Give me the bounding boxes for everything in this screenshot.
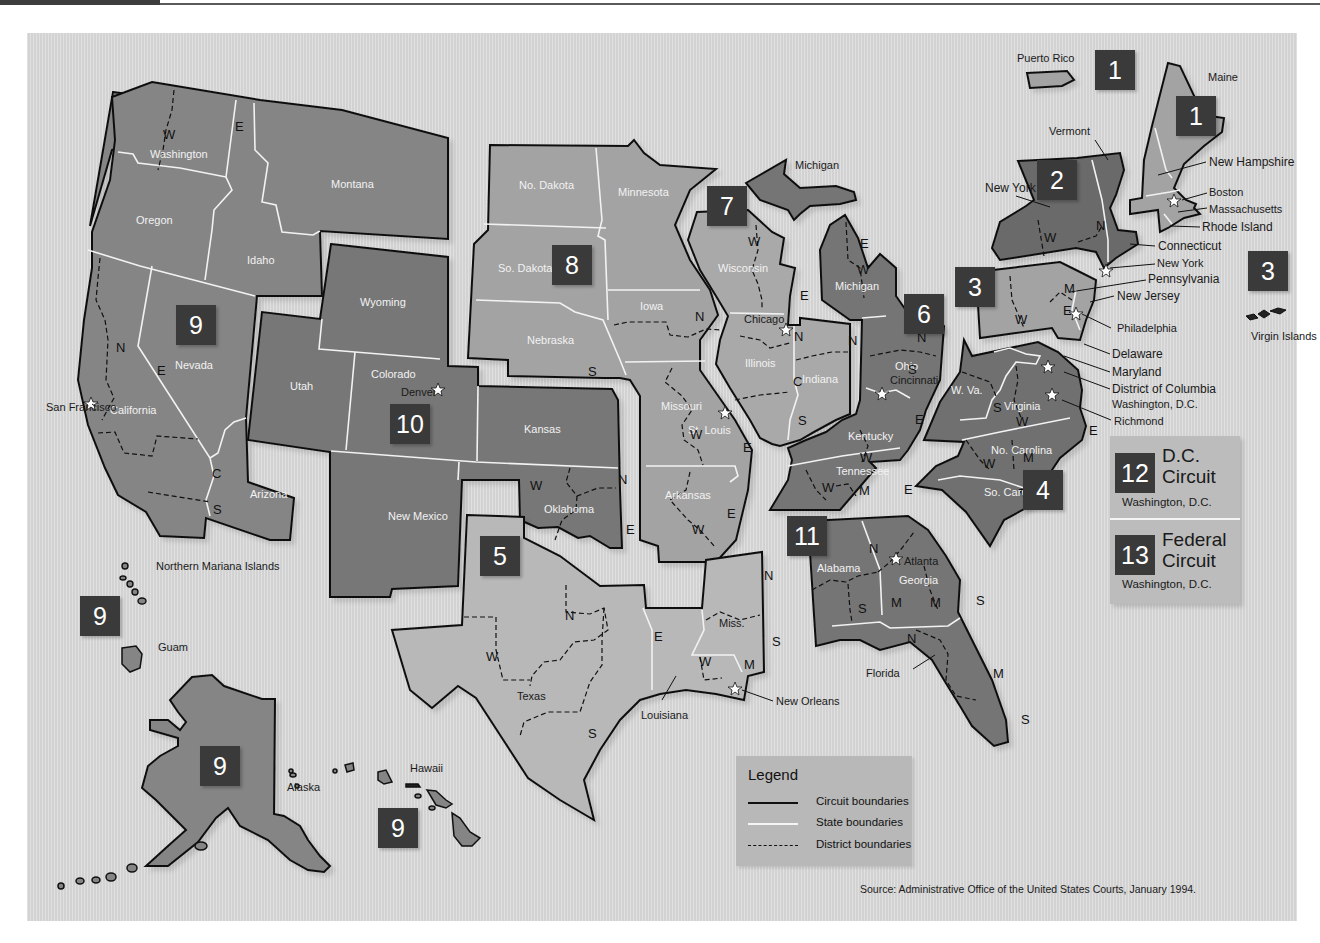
svg-text:N: N bbox=[116, 340, 125, 355]
label-alabama: Alabama bbox=[817, 562, 861, 574]
label-new-mexico-text: New Mexico bbox=[388, 510, 448, 522]
solid-line-icon bbox=[748, 802, 798, 804]
label-dc: District of Columbia bbox=[1112, 382, 1216, 396]
svg-text:W: W bbox=[822, 480, 835, 495]
circuit-number-13: 13 bbox=[1115, 535, 1155, 575]
label-massachusetts: Massachusetts bbox=[1209, 203, 1283, 215]
circuit-number-9-hawaii: 9 bbox=[378, 808, 418, 848]
svg-text:E: E bbox=[800, 288, 809, 303]
label-new-york: New York bbox=[985, 181, 1037, 195]
federal-circuit-title-line1: Federal bbox=[1162, 530, 1226, 550]
legend-label: Circuit boundaries bbox=[816, 795, 909, 807]
label-virginia: Virginia bbox=[1004, 400, 1041, 412]
city-washington-dc: Washington, D.C. bbox=[1112, 398, 1198, 410]
label-maryland: Maryland bbox=[1112, 365, 1161, 379]
label-puerto-rico: Puerto Rico bbox=[1017, 52, 1074, 64]
svg-text:S: S bbox=[908, 362, 917, 377]
svg-text:N: N bbox=[848, 333, 857, 348]
svg-text:W: W bbox=[1016, 414, 1029, 429]
label-texas: Texas bbox=[517, 690, 546, 702]
label-new-mexico: New Mexico bbox=[388, 510, 448, 522]
label-california: California bbox=[110, 404, 157, 416]
city-new-york: New York bbox=[1157, 257, 1204, 269]
circuit-number-3-virgin-islands: 3 bbox=[1248, 251, 1288, 291]
label-kentucky: Kentucky bbox=[848, 430, 894, 442]
city-philadelphia: Philadelphia bbox=[1117, 322, 1178, 334]
svg-text:N: N bbox=[695, 309, 704, 324]
circuit-number-5: 5 bbox=[480, 536, 520, 576]
label-guam: Guam bbox=[158, 641, 188, 653]
svg-text:E: E bbox=[904, 482, 913, 497]
legend-label: State boundaries bbox=[816, 816, 903, 828]
svg-text:E: E bbox=[1063, 303, 1072, 318]
svg-text:M: M bbox=[1064, 281, 1075, 296]
svg-text:W: W bbox=[699, 654, 712, 669]
label-tennessee: Tennessee bbox=[836, 465, 889, 477]
circuit-number-1-puerto-rico: 1 bbox=[1095, 50, 1135, 90]
label-missouri: Missouri bbox=[661, 400, 702, 412]
svg-text:S: S bbox=[772, 634, 781, 649]
label-michigan-up: Michigan bbox=[795, 159, 839, 171]
svg-text:W: W bbox=[692, 522, 705, 537]
svg-text:W: W bbox=[690, 427, 703, 442]
label-wisconsin: Wisconsin bbox=[718, 262, 768, 274]
label-rhode-island: Rhode Island bbox=[1202, 220, 1273, 234]
label-idaho: Idaho bbox=[247, 254, 275, 266]
label-new-jersey: New Jersey bbox=[1117, 289, 1180, 303]
svg-text:W: W bbox=[163, 127, 176, 142]
label-w-va: W. Va. bbox=[951, 384, 983, 396]
svg-text:S: S bbox=[976, 593, 985, 608]
label-alaska: Alaska bbox=[287, 781, 321, 793]
svg-text:N: N bbox=[869, 541, 878, 556]
circuit-number-12: 12 bbox=[1115, 453, 1155, 493]
label-so-dakota: So. Dakota bbox=[498, 262, 553, 274]
svg-text:N: N bbox=[1096, 218, 1105, 233]
city-san-francisco: San Francisco bbox=[46, 401, 116, 413]
label-michigan: Michigan bbox=[835, 280, 879, 292]
source-note: Source: Administrative Office of the Uni… bbox=[860, 883, 1196, 895]
label-kansas: Kansas bbox=[524, 423, 561, 435]
svg-text:E: E bbox=[654, 629, 663, 644]
svg-text:M: M bbox=[930, 595, 941, 610]
label-minnesota: Minnesota bbox=[618, 186, 670, 198]
svg-text:S: S bbox=[588, 726, 597, 741]
label-nebraska: Nebraska bbox=[527, 334, 575, 346]
white-line-icon bbox=[748, 823, 798, 825]
svg-text:W: W bbox=[748, 234, 761, 249]
label-connecticut: Connecticut bbox=[1158, 239, 1222, 253]
legend-item-district: District boundaries bbox=[748, 839, 918, 853]
svg-text:W: W bbox=[1015, 312, 1028, 327]
svg-text:C: C bbox=[793, 374, 802, 389]
svg-text:W: W bbox=[857, 262, 870, 277]
svg-text:S: S bbox=[798, 413, 807, 428]
star-icon bbox=[1099, 264, 1113, 277]
federal-circuit-location: Washington, D.C. bbox=[1122, 578, 1212, 590]
legend-label: District boundaries bbox=[816, 838, 911, 850]
svg-text:N: N bbox=[907, 631, 916, 646]
label-oklahoma: Oklahoma bbox=[544, 503, 595, 515]
circuit-number-1-new-england: 1 bbox=[1176, 96, 1216, 136]
svg-text:W: W bbox=[486, 649, 499, 664]
label-louisiana: Louisiana bbox=[641, 709, 689, 721]
circuit-number-3: 3 bbox=[955, 267, 995, 307]
label-virgin-islands: Virgin Islands bbox=[1251, 330, 1317, 342]
circuit-number-4: 4 bbox=[1023, 470, 1063, 510]
virgin-islands bbox=[1246, 308, 1286, 320]
label-hawaii: Hawaii bbox=[410, 762, 443, 774]
circuit-number-10: 10 bbox=[390, 404, 430, 444]
circuit-number-9-guam: 9 bbox=[80, 596, 120, 636]
label-arkansas: Arkansas bbox=[665, 489, 711, 501]
svg-text:M: M bbox=[891, 595, 902, 610]
svg-text:W: W bbox=[860, 450, 873, 465]
legend-item-state: State boundaries bbox=[748, 817, 918, 831]
circuit-number-6: 6 bbox=[904, 294, 944, 334]
dc-circuit-location: Washington, D.C. bbox=[1122, 496, 1212, 508]
circuit-number-2: 2 bbox=[1037, 160, 1077, 200]
dc-box-divider bbox=[1110, 518, 1240, 520]
circuit-number-9: 9 bbox=[176, 305, 216, 345]
svg-text:S: S bbox=[588, 364, 597, 379]
label-no-carolina: No. Carolina bbox=[991, 444, 1053, 456]
label-arizona: Arizona bbox=[250, 488, 288, 500]
city-richmond: Richmond bbox=[1114, 415, 1164, 427]
label-washington: Washington bbox=[150, 148, 208, 160]
